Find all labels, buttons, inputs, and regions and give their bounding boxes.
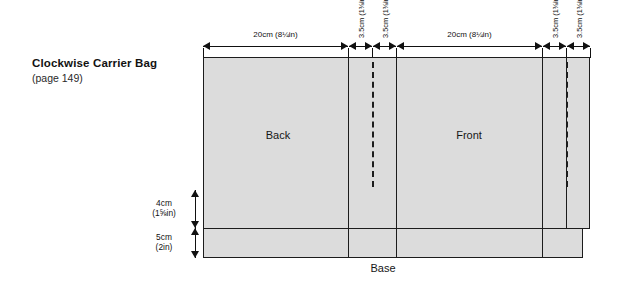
arrow-head-right bbox=[365, 42, 372, 50]
arrow-head-top bbox=[191, 228, 199, 235]
arrow-head-left bbox=[349, 42, 356, 50]
page-reference: (page 149) bbox=[32, 71, 202, 85]
arrow-shaft bbox=[397, 46, 542, 47]
arrow-head-bottom bbox=[191, 221, 199, 228]
arrow-head-right bbox=[535, 42, 542, 50]
dimension-label-front-gusset-right: 3.5cm (1⅜in) bbox=[575, 0, 584, 38]
diagram-canvas: Clockwise Carrier Bag (page 149) 20cm (8… bbox=[0, 0, 617, 283]
dimension-arrow-base-depth bbox=[191, 228, 200, 258]
panel-base bbox=[203, 228, 583, 258]
divider-base-front-gusset bbox=[542, 228, 543, 258]
arrow-head-left bbox=[373, 42, 380, 50]
divider-front-gusset bbox=[542, 57, 543, 229]
arrow-shaft bbox=[203, 46, 348, 47]
dimension-label-back-gusset-left: 3.5cm (1⅜in) bbox=[357, 0, 366, 38]
fold-line-back-gusset bbox=[372, 62, 374, 187]
dimension-label-front-gusset-left: 3.5cm (1⅜in) bbox=[551, 0, 560, 38]
dimension-label-front-width: 20cm (8¼in) bbox=[397, 30, 542, 39]
divider-front-start bbox=[396, 57, 397, 229]
dimension-arrow-back-gusset-left bbox=[349, 42, 372, 51]
arrow-head-top bbox=[191, 190, 199, 197]
dimension-arrow-hem-allowance bbox=[191, 190, 200, 228]
dimension-label-hem-allowance: 4cm (1⅝in) bbox=[141, 198, 187, 218]
panel-label-base: Base bbox=[338, 262, 428, 274]
panel-front-gusset-right bbox=[566, 57, 590, 229]
title-block: Clockwise Carrier Bag (page 149) bbox=[32, 56, 202, 85]
dimension-label-back-width: 20cm (8¼in) bbox=[203, 30, 348, 39]
page-title: Clockwise Carrier Bag bbox=[32, 56, 202, 70]
fold-line-front-gusset bbox=[566, 62, 568, 187]
fabric-upper-section bbox=[203, 57, 583, 229]
arrow-head-right bbox=[583, 42, 590, 50]
dimension-arrow-back-gusset-right bbox=[373, 42, 396, 51]
dimension-arrow-front-gusset-left bbox=[543, 42, 566, 51]
arrow-head-bottom bbox=[191, 251, 199, 258]
dimension-arrow-back-width bbox=[203, 42, 348, 51]
divider-back-gusset bbox=[348, 57, 349, 229]
panel-label-back: Back bbox=[233, 129, 323, 141]
arrow-head-left bbox=[397, 42, 404, 50]
extension-tick bbox=[590, 48, 591, 58]
dimension-arrow-front-gusset-right bbox=[567, 42, 590, 51]
divider-base-back-gusset bbox=[348, 228, 349, 258]
dimension-label-base-depth: 5cm (2in) bbox=[141, 232, 187, 252]
panel-label-front: Front bbox=[424, 129, 514, 141]
arrow-head-left bbox=[567, 42, 574, 50]
divider-base-front-start bbox=[396, 228, 397, 258]
arrow-head-right bbox=[559, 42, 566, 50]
dimension-label-back-gusset-right: 3.5cm (1⅜in) bbox=[381, 0, 390, 38]
dimension-arrow-front-width bbox=[397, 42, 542, 51]
arrow-head-left bbox=[203, 42, 210, 50]
arrow-head-left bbox=[543, 42, 550, 50]
arrow-head-right bbox=[389, 42, 396, 50]
arrow-head-right bbox=[341, 42, 348, 50]
